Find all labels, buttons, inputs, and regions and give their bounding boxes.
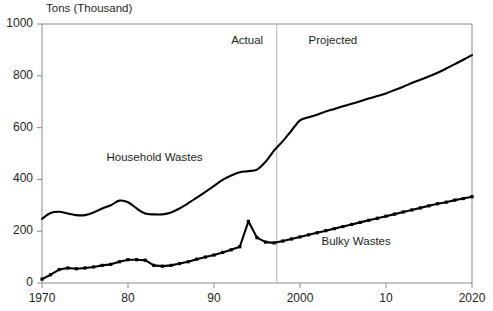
- data-point-marker: [58, 268, 61, 271]
- data-point-marker: [101, 264, 104, 267]
- x-tick-label: 2000: [270, 291, 330, 305]
- data-point-marker: [221, 251, 224, 254]
- data-point-marker: [427, 204, 430, 207]
- data-point-marker: [135, 258, 138, 261]
- data-point-marker: [40, 278, 43, 281]
- data-point-marker: [195, 258, 198, 261]
- x-tick-label: 1970: [12, 291, 72, 305]
- y-tick-label: 1000: [0, 16, 33, 30]
- data-point-marker: [83, 266, 86, 269]
- household-wastes-line: [42, 55, 472, 219]
- y-axis-title: Tons (Thousand): [46, 2, 132, 14]
- actual-region-label: Actual: [231, 34, 263, 46]
- x-tick-label: 10: [356, 291, 416, 305]
- data-point-marker: [109, 263, 112, 266]
- data-point-marker: [204, 256, 207, 259]
- bulky-series-label: Bulky Wastes: [322, 235, 391, 247]
- data-point-marker: [126, 258, 129, 261]
- data-point-marker: [410, 208, 413, 211]
- data-point-marker: [384, 215, 387, 218]
- y-tick-label: 800: [0, 68, 33, 82]
- data-point-marker: [419, 206, 422, 209]
- data-point-marker: [144, 259, 147, 262]
- data-point-marker: [402, 210, 405, 213]
- data-point-marker: [350, 223, 353, 226]
- y-tick-label: 600: [0, 120, 33, 134]
- household-series-label: Household Wastes: [107, 151, 203, 163]
- data-point-marker: [324, 229, 327, 232]
- y-tick-label: 400: [0, 171, 33, 185]
- data-point-marker: [230, 248, 233, 251]
- data-point-marker: [393, 213, 396, 216]
- data-point-marker: [264, 240, 267, 243]
- data-point-marker: [281, 239, 284, 242]
- data-point-marker: [298, 235, 301, 238]
- y-tick-label: 0: [0, 275, 33, 289]
- data-point-marker: [169, 264, 172, 267]
- x-tick-label: 2020: [442, 291, 493, 305]
- data-point-marker: [161, 265, 164, 268]
- data-point-marker: [273, 241, 276, 244]
- data-point-marker: [462, 197, 465, 200]
- data-point-marker: [255, 236, 258, 239]
- data-point-marker: [118, 260, 121, 263]
- data-point-marker: [290, 237, 293, 240]
- data-point-marker: [92, 265, 95, 268]
- data-point-marker: [178, 262, 181, 265]
- data-point-marker: [376, 217, 379, 220]
- data-point-marker: [307, 233, 310, 236]
- data-point-marker: [341, 225, 344, 228]
- data-point-marker: [436, 202, 439, 205]
- x-tick-label: 90: [184, 291, 244, 305]
- data-point-marker: [49, 273, 52, 276]
- data-point-marker: [316, 231, 319, 234]
- x-axis-ticks: [42, 283, 472, 288]
- data-point-marker: [367, 219, 370, 222]
- y-axis-ticks: [37, 24, 42, 283]
- x-tick-label: 80: [98, 291, 158, 305]
- data-point-marker: [470, 195, 473, 198]
- waste-projection-chart: Tons (Thousand) 02004006008001000 197080…: [0, 0, 493, 311]
- data-point-marker: [333, 227, 336, 230]
- y-tick-label: 200: [0, 223, 33, 237]
- data-point-marker: [66, 266, 69, 269]
- chart-canvas: [0, 0, 493, 311]
- data-point-marker: [445, 201, 448, 204]
- data-point-marker: [247, 220, 250, 223]
- data-point-marker: [453, 199, 456, 202]
- data-point-marker: [359, 221, 362, 224]
- data-point-marker: [212, 253, 215, 256]
- projected-region-label: Projected: [309, 34, 358, 46]
- data-point-marker: [187, 260, 190, 263]
- data-point-marker: [75, 267, 78, 270]
- data-point-marker: [238, 245, 241, 248]
- data-point-marker: [152, 264, 155, 267]
